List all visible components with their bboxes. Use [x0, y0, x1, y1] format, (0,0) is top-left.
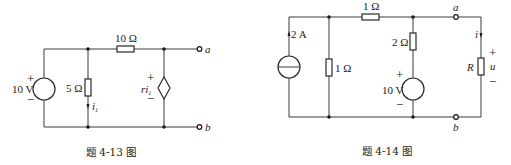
terminal-a-label: a	[205, 43, 211, 55]
dependent-source-icon	[158, 77, 170, 99]
resistor-5ohm-label: 5 Ω	[66, 82, 82, 94]
terminal-b	[454, 115, 459, 120]
node	[86, 47, 90, 51]
load-minus: −	[489, 74, 496, 89]
node	[162, 125, 166, 129]
node	[327, 15, 331, 19]
vsource-label: 10 V	[382, 84, 404, 96]
load-resistor-label: R	[466, 61, 474, 73]
vsource-minus: −	[27, 92, 34, 107]
terminal-b-label: b	[205, 121, 211, 133]
load-voltage-label: u	[490, 60, 496, 72]
terminal-b-label: b	[453, 121, 459, 133]
load-current-arrow-icon	[480, 33, 483, 38]
terminal-a-label: a	[453, 1, 459, 13]
terminal-a	[454, 15, 459, 20]
resistor-1ohm-series-icon	[362, 14, 379, 20]
terminal-b	[197, 125, 202, 130]
figure-4-13: + 10 V − 5 Ω i1 10 Ω + ri1 − a b 题 4-13 …	[12, 32, 211, 158]
node	[162, 47, 166, 51]
terminal-a	[197, 47, 202, 52]
resistor-10ohm-label: 10 Ω	[115, 32, 137, 44]
current-label: i1	[92, 100, 98, 113]
load-current-label: i	[475, 28, 478, 40]
resistor-10ohm-icon	[117, 46, 134, 52]
current-source-label: 2 A	[291, 28, 307, 40]
node	[411, 15, 415, 19]
resistor-2ohm-label: 2 Ω	[392, 36, 408, 48]
caption-4-14: 题 4-14 图	[362, 145, 412, 157]
load-plus: +	[489, 45, 496, 60]
figure-4-14: 2 A 1 Ω 1 Ω 2 Ω + 10 V − R i + u − a b	[278, 0, 496, 157]
resistor-1ohm-shunt-label: 1 Ω	[335, 62, 351, 74]
load-resistor-icon	[478, 58, 484, 75]
resistor-1ohm-series-label: 1 Ω	[363, 0, 379, 12]
resistor-2ohm-icon	[410, 33, 416, 50]
vsource-minus: −	[396, 97, 403, 112]
resistor-1ohm-shunt-icon	[326, 59, 332, 76]
resistor-5ohm-icon	[85, 79, 91, 96]
node	[411, 115, 415, 119]
voltage-source-icon	[33, 78, 55, 100]
caption-4-13: 题 4-13 图	[86, 146, 136, 158]
current-arrow-icon	[87, 104, 90, 109]
node	[86, 125, 90, 129]
dep-minus: −	[147, 91, 154, 106]
voltage-source-icon	[402, 78, 424, 100]
node	[327, 115, 331, 119]
circuit-figures: + 10 V − 5 Ω i1 10 Ω + ri1 − a b 题 4-13 …	[0, 0, 511, 165]
vsource-plus: +	[396, 67, 403, 82]
